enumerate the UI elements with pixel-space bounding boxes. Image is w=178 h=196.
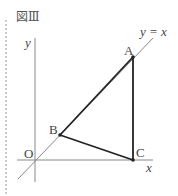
- figure-canvas: 図Ⅲ y x O y = x A B C: [0, 0, 178, 196]
- segment-ab: [60, 57, 133, 135]
- line-label: y = x: [138, 24, 167, 39]
- point-a-label: A: [124, 43, 134, 58]
- x-axis-label: x: [145, 160, 152, 175]
- y-axis-label: y: [23, 35, 31, 50]
- point-c: [131, 158, 135, 162]
- coordinate-diagram: y x O y = x A B C: [0, 0, 178, 196]
- point-c-label: C: [136, 145, 145, 160]
- origin-label: O: [24, 146, 33, 161]
- point-b-label: B: [49, 122, 58, 137]
- point-b: [58, 133, 62, 137]
- segment-bc: [60, 135, 133, 160]
